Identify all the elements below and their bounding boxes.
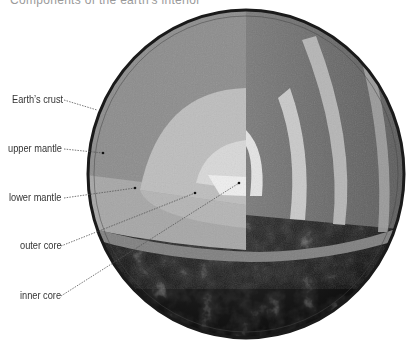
earth-cutaway-illustration: [0, 0, 419, 346]
label-upper-mantle: upper mantle: [8, 142, 62, 154]
earth-layers-diagram: Components of the earth's interior: [0, 0, 419, 346]
label-outer-core: outer core: [20, 239, 62, 251]
label-inner-core: inner core: [20, 289, 61, 301]
label-earths-crust: Earth’s crust: [12, 93, 63, 105]
label-lower-mantle: lower mantle: [9, 191, 61, 203]
globe: [80, 0, 419, 346]
leader-crust: [64, 100, 97, 110]
